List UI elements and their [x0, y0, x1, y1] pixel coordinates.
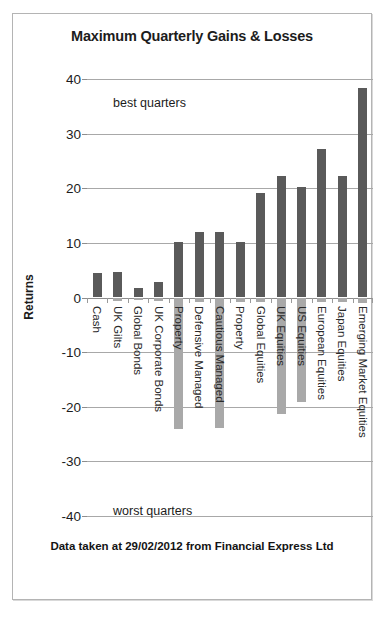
category-label: Global Equities — [254, 306, 266, 383]
bar-negative — [113, 298, 122, 301]
gridline-30 — [87, 134, 373, 135]
bar-negative — [154, 298, 163, 301]
bar-negative — [134, 298, 143, 301]
y-tick-label--40: -40 — [41, 509, 81, 524]
bar-positive — [317, 149, 326, 298]
chart-card: Maximum Quarterly Gains & Losses Returns… — [12, 13, 372, 600]
annotation-best-quarters: best quarters — [113, 96, 186, 110]
y-tick-mark-30 — [82, 134, 87, 135]
bar-positive — [215, 232, 224, 297]
category-tick — [169, 298, 170, 303]
bar-positive — [297, 187, 306, 297]
bar-negative — [358, 298, 367, 303]
category-tick — [312, 298, 313, 303]
y-tick-mark--40 — [82, 516, 87, 517]
bar-negative — [195, 298, 204, 302]
category-tick — [230, 298, 231, 303]
bar-positive — [277, 176, 286, 298]
category-tick — [210, 298, 211, 303]
bar-negative — [317, 298, 326, 303]
category-tick — [353, 298, 354, 303]
category-tick — [87, 298, 88, 303]
category-tick — [332, 298, 333, 303]
bar-positive — [134, 288, 143, 297]
bar-positive — [113, 272, 122, 298]
category-label: Defensive Managed — [193, 306, 205, 408]
y-axis-title: Returns — [22, 274, 36, 319]
y-tick-mark--10 — [82, 352, 87, 353]
category-tick — [291, 298, 292, 303]
y-tick-label-10: 10 — [41, 235, 81, 250]
category-label: Japan Equities — [336, 306, 348, 381]
category-label: Cautious Managed — [213, 306, 225, 403]
category-label: UK Corporate Bonds — [152, 306, 164, 412]
category-tick — [148, 298, 149, 303]
bar-positive — [236, 242, 245, 298]
category-label: UK Equities — [275, 306, 287, 366]
category-label: UK Gilts — [111, 306, 123, 348]
bar-positive — [154, 282, 163, 298]
gridline-10 — [87, 243, 373, 244]
category-tick — [128, 298, 129, 303]
bar-positive — [338, 176, 347, 298]
bar-positive — [174, 242, 183, 298]
y-tick-label-20: 20 — [41, 181, 81, 196]
gridline-40 — [87, 79, 373, 80]
y-tick-label-40: 40 — [41, 72, 81, 87]
y-tick-mark-10 — [82, 243, 87, 244]
gridline--30 — [87, 461, 373, 462]
category-label: European Equities — [315, 306, 327, 400]
y-tick-label--20: -20 — [41, 399, 81, 414]
bar-positive — [358, 88, 367, 297]
chart-title: Maximum Quarterly Gains & Losses — [13, 28, 371, 44]
category-label: Property — [172, 306, 184, 349]
bar-negative — [256, 298, 265, 303]
y-tick-label--30: -30 — [41, 454, 81, 469]
category-label: Emerging Market Equities — [356, 306, 368, 438]
plot-area: 403020100-10-20-30-40 CashUK GiltsGlobal… — [87, 79, 373, 516]
gridline--20 — [87, 407, 373, 408]
category-label: Property — [234, 306, 246, 349]
category-tick — [107, 298, 108, 303]
gridline-20 — [87, 188, 373, 189]
category-label: Cash — [91, 306, 103, 333]
annotation-worst-quarters: worst quarters — [113, 504, 192, 518]
bar-negative — [338, 298, 347, 303]
category-tick — [271, 298, 272, 303]
category-label: US Equities — [295, 306, 307, 366]
category-tick — [250, 298, 251, 303]
chart-caption: Data taken at 29/02/2012 from Financial … — [21, 539, 363, 555]
category-label: Global Bonds — [132, 306, 144, 375]
y-tick-label--10: -10 — [41, 345, 81, 360]
y-tick-mark-20 — [82, 188, 87, 189]
bar-positive — [93, 273, 102, 297]
y-tick-mark--30 — [82, 461, 87, 462]
bar-positive — [256, 193, 265, 297]
bar-positive — [195, 232, 204, 298]
bar-negative — [236, 298, 245, 302]
category-tick — [189, 298, 190, 303]
y-tick-mark-40 — [82, 79, 87, 80]
y-tick-mark--20 — [82, 407, 87, 408]
y-tick-label-30: 30 — [41, 126, 81, 141]
gridline--10 — [87, 352, 373, 353]
category-tick — [372, 298, 373, 303]
y-tick-label-0: 0 — [41, 290, 81, 305]
